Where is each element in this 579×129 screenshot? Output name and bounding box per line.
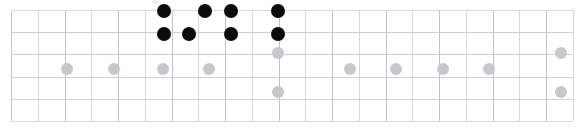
grid-dot-inactive[interactable] — [437, 63, 449, 75]
grid-dot-active[interactable] — [271, 27, 285, 41]
grid-dot-inactive[interactable] — [390, 63, 402, 75]
gridline-horizontal — [11, 77, 573, 78]
gridline-horizontal — [11, 10, 573, 11]
gridline-vertical — [172, 10, 173, 121]
grid-dot-inactive[interactable] — [344, 63, 356, 75]
grid-dot-inactive[interactable] — [157, 63, 169, 75]
gridline-vertical — [91, 10, 92, 121]
gridline-vertical — [573, 10, 574, 121]
grid-dot-inactive[interactable] — [203, 63, 215, 75]
gridline-vertical — [546, 10, 547, 121]
gridline-vertical — [145, 10, 146, 121]
gridline-horizontal — [11, 99, 573, 100]
grid-dot-inactive[interactable] — [108, 63, 120, 75]
grid-dot-inactive[interactable] — [61, 63, 73, 75]
grid-dot-active[interactable] — [224, 4, 238, 18]
gridline-vertical — [38, 10, 39, 121]
gridline-vertical — [412, 10, 413, 121]
gridline-vertical — [332, 10, 333, 121]
stray-speck — [152, 0, 159, 4]
gridline-vertical — [386, 10, 387, 121]
gridline-vertical — [252, 10, 253, 121]
grid-dot-inactive[interactable] — [272, 86, 284, 98]
dot-grid-panel — [0, 0, 579, 129]
grid-dot-active[interactable] — [157, 27, 171, 41]
grid-dot-active[interactable] — [157, 4, 171, 18]
gridline-vertical — [305, 10, 306, 121]
grid-dot-active[interactable] — [182, 27, 196, 41]
gridline-horizontal — [11, 54, 573, 55]
grid-dot-active[interactable] — [271, 4, 285, 18]
gridline-vertical — [519, 10, 520, 121]
grid-dot-inactive[interactable] — [555, 86, 567, 98]
grid-dot-inactive[interactable] — [483, 63, 495, 75]
grid-dot-inactive[interactable] — [555, 47, 567, 59]
gridline-vertical — [198, 10, 199, 121]
grid-dot-inactive[interactable] — [272, 47, 284, 59]
gridline-vertical — [359, 10, 360, 121]
gridline-vertical — [11, 10, 12, 121]
grid-dot-active[interactable] — [198, 4, 212, 18]
grid-dot-active[interactable] — [224, 27, 238, 41]
gridline-vertical — [466, 10, 467, 121]
gridline-horizontal — [11, 121, 573, 122]
gridline-horizontal — [11, 32, 573, 33]
gridline-vertical — [225, 10, 226, 121]
